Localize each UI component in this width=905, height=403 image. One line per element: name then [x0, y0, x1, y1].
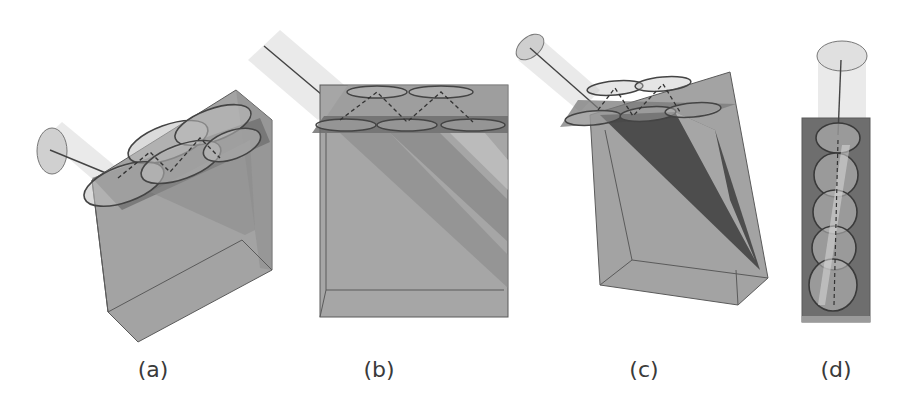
panel-b — [240, 20, 530, 330]
beam-aperture — [817, 41, 867, 71]
caption-b: (b) — [339, 357, 419, 382]
caption-c: (c) — [604, 357, 684, 382]
caption-a: (a) — [113, 357, 193, 382]
panel-b-render — [240, 20, 530, 330]
panel-d-render — [780, 20, 905, 340]
box-bottom — [802, 316, 870, 322]
caption-d: (d) — [796, 357, 876, 382]
panel-d — [780, 20, 905, 340]
panel-c — [500, 20, 800, 320]
panel-c-render — [500, 20, 800, 320]
